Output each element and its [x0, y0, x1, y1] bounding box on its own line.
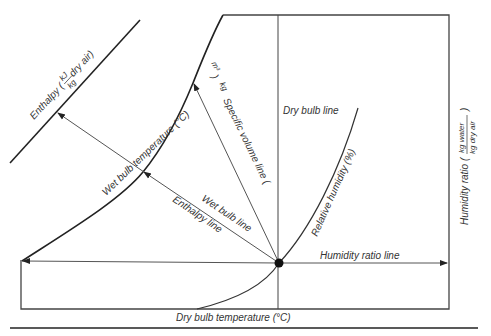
enthalpy-unit-denominator: kg — [66, 77, 79, 90]
humidity-ratio-line-label: Humidity ratio line — [320, 250, 400, 261]
specific-volume-label: Specific volume line ( — [221, 96, 273, 187]
relative-humidity-label: Relative humidity (%) — [309, 147, 357, 238]
state-point — [275, 259, 284, 268]
saturation-curve — [22, 15, 223, 261]
dry-bulb-temperature-label: Dry bulb temperature (°C) — [176, 312, 291, 323]
dry-bulb-line-label: Dry bulb line — [283, 105, 339, 116]
specific-volume-unit-numerator: m³ — [209, 60, 221, 73]
specific-volume-unit-denominator: kg — [218, 81, 230, 93]
specific-volume-close: ) — [209, 72, 221, 81]
wet-bulb-temperature-label: Wet bulb temperature (°C) — [100, 109, 192, 198]
humidity-ratio-unit-denominator: kg dry air — [468, 121, 477, 154]
humidity-ratio-unit-numerator: kg water — [457, 122, 466, 153]
enthalpy-scale-line — [10, 20, 140, 163]
humidity-ratio-line-left — [23, 261, 279, 263]
psychrometric-diagram: Enthalpy ( kJ kg dry air) Wet bulb tempe… — [0, 0, 491, 336]
humidity-ratio-close: ) — [459, 108, 470, 112]
humidity-ratio-axis-label: Humidity ratio ( — [459, 156, 470, 225]
